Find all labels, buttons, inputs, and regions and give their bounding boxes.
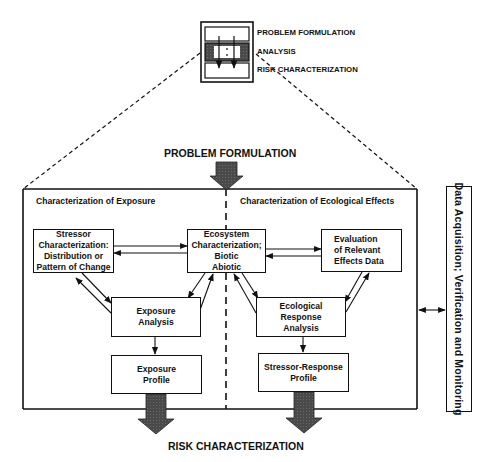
- legend-label-analysis: ANALYSIS: [257, 47, 296, 56]
- box-line: Analysis: [280, 323, 323, 334]
- box-line: Abiotic: [191, 262, 261, 273]
- box-line: Distribution or: [36, 251, 110, 262]
- legend-label-risk-characterization: RISK CHARACTERIZATION: [257, 65, 358, 74]
- zoom-line-right: [256, 54, 417, 189]
- effects-section-title: Characterization of Ecological Effects: [240, 196, 394, 206]
- block-arrow-down-top: [210, 162, 243, 190]
- exposure-analysis-box: Exposure Analysis: [111, 297, 201, 337]
- box-line: of Relevant: [334, 245, 384, 256]
- data-acquisition-panel: Data Acquisition; Verification and Monit…: [446, 186, 472, 412]
- zoom-line-left: [23, 53, 200, 189]
- box-line: Exposure: [136, 306, 175, 317]
- ecosystem-characterization-box: Ecosystem Characterization; Biotic Abiot…: [187, 229, 266, 273]
- block-arrow-down-effects: [286, 392, 322, 433]
- box-line: Stressor: [36, 229, 110, 240]
- exposure-profile-box: Exposure Profile: [111, 355, 202, 394]
- box-line: Response: [280, 312, 323, 323]
- box-line: Stressor-Response: [264, 362, 343, 373]
- stressor-response-profile-box: Stressor-Response Profile: [258, 353, 349, 392]
- box-line: Biotic: [191, 251, 261, 262]
- box-line: Profile: [137, 375, 176, 386]
- box-line: Characterization;: [191, 240, 261, 251]
- box-line: Exposure: [137, 364, 176, 375]
- evaluation-effects-data-box: Evaluation of Relevant Effects Data: [321, 229, 402, 272]
- box-line: Analysis: [136, 317, 175, 328]
- legend-label-problem-formulation: PROBLEM FORMULATION: [257, 28, 355, 37]
- stressor-characterization-box: Stressor Characterization: Distribution …: [33, 229, 114, 273]
- box-line: Ecosystem: [191, 229, 261, 240]
- box-line: Characterization:: [36, 240, 110, 251]
- data-acquisition-label: Data Acquisition; Verification and Monit…: [453, 182, 465, 415]
- problem-formulation-heading: PROBLEM FORMULATION: [164, 147, 296, 159]
- box-line: Profile: [264, 373, 343, 384]
- box-line: Ecological: [280, 301, 323, 312]
- ecological-response-analysis-box: Ecological Response Analysis: [256, 297, 346, 337]
- box-line: Pattern of Change: [36, 262, 110, 273]
- exposure-section-title: Characterization of Exposure: [36, 196, 155, 206]
- legend-icon: [201, 22, 253, 82]
- risk-characterization-heading: RISK CHARACTERIZATION: [168, 440, 304, 452]
- box-line: Evaluation: [334, 234, 384, 245]
- block-arrow-down-exposure: [138, 394, 174, 434]
- box-line: Effects Data: [334, 256, 384, 267]
